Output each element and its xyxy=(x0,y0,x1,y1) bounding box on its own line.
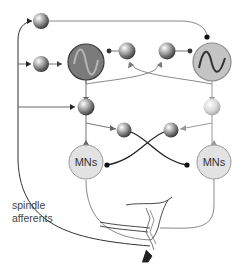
excitatory-synapse-inhib-left xyxy=(126,61,135,69)
inhibitory-synapse-osc-left xyxy=(107,49,112,54)
excitatory-synapse-mn-left xyxy=(83,140,89,145)
rhythm-generator-right xyxy=(193,43,231,81)
inhibitory-synapse-mn-right xyxy=(184,162,189,167)
motoneurons-left: MNs xyxy=(69,145,103,179)
crossed-interneuron-right xyxy=(164,123,179,138)
inhibitory-synapse-top xyxy=(204,34,209,39)
afferent-interneuron-left xyxy=(33,56,49,72)
mn-right-axon xyxy=(160,179,214,228)
excitatory-synapse-crossed-left xyxy=(110,125,116,131)
rhythm-generator-left xyxy=(68,44,104,80)
inhibitory-synapse-osc-right xyxy=(188,49,193,54)
mn-right-label: MNs xyxy=(203,156,226,168)
excitatory-synapse-row2 xyxy=(26,61,31,67)
inhibitory-interneuron-right xyxy=(159,43,176,60)
top-inhibitory-path xyxy=(49,21,207,36)
excitatory-synapse-top xyxy=(27,18,32,24)
afferents-label-line1: spindle xyxy=(12,199,45,211)
excitatory-synapse-row3 xyxy=(70,104,75,110)
inhibitory-synapse-mn-left xyxy=(104,162,109,167)
inhibitory-interneuron-left xyxy=(119,43,136,60)
excitatory-synapse-crossed-right xyxy=(180,125,186,131)
pattern-interneuron-left xyxy=(78,99,95,116)
cpg-diagram: MNs MNs spindle afferents xyxy=(0,0,244,276)
afferent-interneuron-top xyxy=(33,13,49,29)
afferents-label-line2: afferents xyxy=(12,212,53,224)
motoneurons-right: MNs xyxy=(197,145,231,179)
excitatory-synapse-osc-left xyxy=(57,61,62,67)
crossed-interneuron-left xyxy=(117,123,132,138)
pattern-interneuron-right xyxy=(204,99,221,116)
mn-left-label: MNs xyxy=(75,156,98,168)
